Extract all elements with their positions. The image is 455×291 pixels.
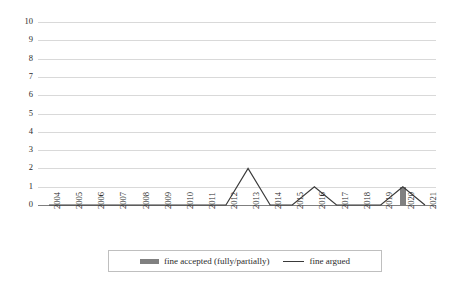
legend-label-fine-argued: fine argued [309,256,350,266]
x-tick-label-2017: 2017 [341,169,350,209]
x-tick-label-2013: 2013 [252,169,261,209]
y-tick-label-7: 7 [9,72,33,81]
legend-line-swatch-icon [283,261,304,262]
y-tick-label-1: 1 [9,182,33,191]
legend-label-fine-accepted: fine accepted (fully/partially) [164,256,269,266]
x-tick-label-2016: 2016 [318,169,327,209]
x-tick-label-2021: 2021 [429,169,438,209]
y-tick-label-8: 8 [9,54,33,63]
chart-container: fine accepted (fully/partially) fine arg… [0,0,455,291]
x-tick-label-2007: 2007 [119,169,128,209]
y-tick-label-10: 10 [9,17,33,26]
y-tick-label-5: 5 [9,109,33,118]
y-tick-label-3: 3 [9,145,33,154]
y-tick-label-9: 9 [9,35,33,44]
x-tick-label-2014: 2014 [274,169,283,209]
x-tick-label-2020: 2020 [407,169,416,209]
y-tick-label-6: 6 [9,90,33,99]
x-tick-label-2019: 2019 [385,169,394,209]
x-tick-label-2008: 2008 [142,169,151,209]
x-tick-label-2004: 2004 [53,169,62,209]
x-tick-label-2005: 2005 [75,169,84,209]
x-tick-label-2011: 2011 [208,169,217,209]
legend-item-fine-argued[interactable]: fine argued [283,256,350,266]
y-tick-label-4: 4 [9,127,33,136]
x-tick-label-2012: 2012 [230,169,239,209]
legend-bar-swatch-icon [140,259,159,264]
legend-item-fine-accepted[interactable]: fine accepted (fully/partially) [140,256,269,266]
chart-legend: fine accepted (fully/partially) fine arg… [108,250,382,272]
y-tick-label-2: 2 [9,163,33,172]
x-tick-label-2009: 2009 [164,169,173,209]
y-tick-label-0: 0 [9,200,33,209]
x-tick-label-2006: 2006 [97,169,106,209]
x-tick-label-2018: 2018 [363,169,372,209]
x-tick-label-2015: 2015 [296,169,305,209]
x-tick-label-2010: 2010 [186,169,195,209]
